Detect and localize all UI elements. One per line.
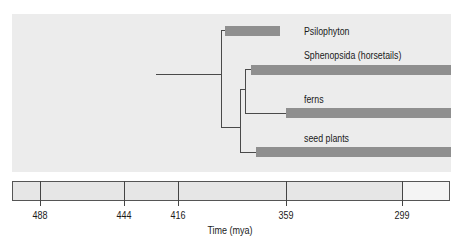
seed-plants-range-bar — [256, 147, 451, 157]
ferns-branch — [245, 113, 286, 114]
tick-416 — [178, 181, 179, 206]
tick-label-488: 488 — [32, 210, 47, 221]
monilophyte-node-vertical — [245, 69, 246, 114]
sphenopsida-range-bar — [251, 65, 451, 75]
tick-444 — [124, 181, 125, 206]
seed-plants-branch — [240, 152, 256, 153]
taxon-label-psilophyton: Psilophyton — [304, 26, 349, 38]
tick-label-444: 444 — [116, 210, 131, 221]
taxon-label-seed-plants: seed plants — [304, 133, 349, 145]
tick-488 — [40, 181, 41, 206]
timeline-bar — [12, 181, 450, 201]
tick-299 — [402, 181, 403, 206]
taxon-label-ferns: ferns — [304, 94, 324, 106]
tick-label-359: 359 — [278, 210, 293, 221]
clade-branch — [221, 127, 241, 128]
root-branch — [156, 74, 222, 75]
main-node-vertical — [221, 30, 222, 128]
ferns-range-bar — [286, 108, 451, 118]
tick-359 — [286, 181, 287, 206]
psilophyton-range-bar — [225, 26, 280, 36]
tick-label-299: 299 — [394, 210, 409, 221]
tick-label-416: 416 — [170, 210, 185, 221]
taxon-label-sphenopsida: Sphenopsida (horsetails) — [304, 50, 401, 62]
axis-title: Time (mya) — [207, 225, 252, 236]
euphyllophyte-node-vertical — [240, 89, 241, 153]
timeline-recent-segment — [403, 182, 449, 200]
